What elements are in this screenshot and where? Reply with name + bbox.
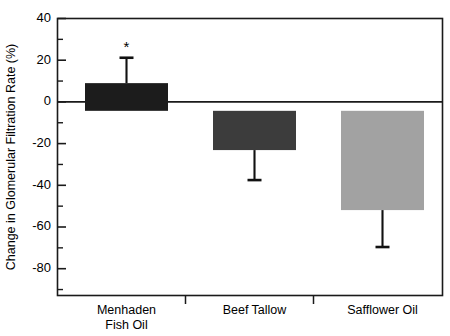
y-tick-label-0: 0 — [44, 93, 51, 108]
x-label-safflower-oil: Safflower Oil — [347, 303, 418, 317]
bar-menhaden-fish-oil — [85, 83, 168, 111]
chart-container: 40 20 0 -20 -40 -60 -80 Change in Glomer… — [0, 0, 450, 336]
bar-safflower-oil — [341, 111, 424, 210]
y-tick-label-minus80: -80 — [32, 260, 51, 275]
x-label-menhaden-line1: Menhaden — [97, 303, 156, 317]
y-axis-ticks — [58, 19, 67, 269]
y-tick-label-minus60: -60 — [32, 218, 51, 233]
bar-group-safflower-oil — [341, 111, 424, 247]
y-tick-label-minus20: -20 — [32, 135, 51, 150]
bar-chart: 40 20 0 -20 -40 -60 -80 Change in Glomer… — [0, 0, 450, 336]
y-tick-label-40: 40 — [37, 10, 51, 25]
y-axis-title: Change in Glomerular Filtration Rate (%) — [4, 44, 18, 270]
x-axis-labels: Menhaden Fish Oil Beef Tallow Safflower … — [97, 303, 418, 332]
bar-group-beef-tallow — [213, 111, 296, 180]
y-tick-label-20: 20 — [37, 52, 51, 67]
y-axis-minor-ticks — [58, 39, 64, 289]
x-label-beef-tallow: Beef Tallow — [223, 303, 288, 317]
x-label-menhaden-line2: Fish Oil — [105, 318, 147, 332]
bar-group-menhaden-fish-oil: * — [85, 38, 168, 111]
y-tick-label-minus40: -40 — [32, 177, 51, 192]
bar-beef-tallow — [213, 111, 296, 150]
significance-marker-menhaden-fish-oil: * — [124, 38, 130, 55]
